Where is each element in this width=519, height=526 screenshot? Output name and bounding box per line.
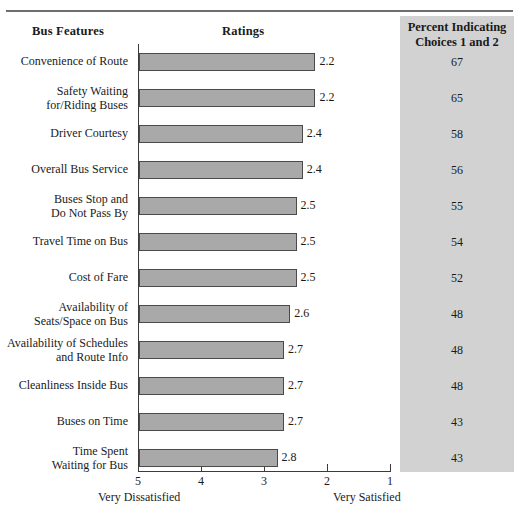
percent-value: 55 [400, 199, 514, 214]
percent-value: 52 [400, 271, 514, 286]
percent-value: 56 [400, 163, 514, 178]
rating-bar [139, 233, 297, 251]
rating-bar [139, 377, 284, 395]
row-label-line: Convenience of Route [0, 55, 128, 69]
chart-row: Time SpentWaiting for Bus2.843 [0, 440, 519, 476]
bar-value-label: 2.7 [288, 414, 303, 429]
bar-value-label: 2.6 [294, 306, 309, 321]
rating-bar [139, 161, 303, 179]
chart-row: Convenience of Route2.267 [0, 44, 519, 80]
row-label: Buses on Time [0, 415, 128, 429]
percent-value: 48 [400, 343, 514, 358]
chart-row: Buses Stop andDo Not Pass By2.555 [0, 188, 519, 224]
percent-value: 48 [400, 307, 514, 322]
row-label-line: Buses on Time [0, 415, 128, 429]
rating-bar [139, 53, 315, 71]
rating-bar [139, 413, 284, 431]
rating-bar [139, 89, 315, 107]
rating-bar [139, 341, 284, 359]
rating-bar [139, 305, 290, 323]
row-label-line: Cleanliness Inside Bus [0, 379, 128, 393]
chart-row: Overall Bus Service2.456 [0, 152, 519, 188]
chart-row: Availability of Schedulesand Route Info2… [0, 332, 519, 368]
axis-caption-very-satisfied: Very Satisfied [333, 490, 401, 505]
row-label-line: Availability of Schedules [0, 337, 128, 351]
percent-value: 43 [400, 451, 514, 466]
rating-bar [139, 125, 303, 143]
row-label-line: Buses Stop and [0, 193, 128, 207]
bar-value-label: 2.7 [288, 378, 303, 393]
percent-value: 54 [400, 235, 514, 250]
rating-bar [139, 449, 278, 467]
row-label: Time SpentWaiting for Bus [0, 445, 128, 472]
percent-value: 43 [400, 415, 514, 430]
row-label: Overall Bus Service [0, 163, 128, 177]
chart-row: Travel Time on Bus2.554 [0, 224, 519, 260]
row-label-line: Waiting for Bus [0, 458, 128, 472]
row-label-line: Travel Time on Bus [0, 235, 128, 249]
row-label-line: for/Riding Buses [0, 98, 128, 112]
bar-value-label: 2.8 [282, 450, 297, 465]
bus-features-ratings-chart: Bus Features Ratings Percent Indicating … [0, 0, 519, 526]
chart-row: Buses on Time2.743 [0, 404, 519, 440]
bar-value-label: 2.5 [301, 270, 316, 285]
x-axis-tick-label: 3 [252, 474, 276, 489]
row-label-line: Overall Bus Service [0, 163, 128, 177]
bar-value-label: 2.7 [288, 342, 303, 357]
row-label: Buses Stop andDo Not Pass By [0, 193, 128, 220]
row-label-line: Safety Waiting [0, 85, 128, 99]
axis-caption-very-dissatisfied: Very Dissatisfied [98, 490, 180, 505]
chart-row: Cost of Fare2.552 [0, 260, 519, 296]
row-label-line: Seats/Space on Bus [0, 314, 128, 328]
row-label-line: Cost of Fare [0, 271, 128, 285]
row-label: Driver Courtesy [0, 127, 128, 141]
row-label: Availability of Schedulesand Route Info [0, 337, 128, 364]
chart-row: Safety Waitingfor/Riding Buses2.265 [0, 80, 519, 116]
x-axis-tick-label: 2 [315, 474, 339, 489]
bar-value-label: 2.2 [319, 54, 334, 69]
percent-value: 48 [400, 379, 514, 394]
row-label-line: Time Spent [0, 445, 128, 459]
x-axis-tick-label: 5 [126, 474, 150, 489]
bar-value-label: 2.5 [301, 234, 316, 249]
percent-value: 67 [400, 55, 514, 70]
row-label: Availability ofSeats/Space on Bus [0, 301, 128, 328]
chart-row: Availability ofSeats/Space on Bus2.648 [0, 296, 519, 332]
bar-value-label: 2.2 [319, 90, 334, 105]
row-label-line: Driver Courtesy [0, 127, 128, 141]
row-label: Convenience of Route [0, 55, 128, 69]
row-label-line: Availability of [0, 301, 128, 315]
percent-value: 58 [400, 127, 514, 142]
row-label: Cost of Fare [0, 271, 128, 285]
row-label: Travel Time on Bus [0, 235, 128, 249]
row-label-line: and Route Info [0, 350, 128, 364]
chart-row: Driver Courtesy2.458 [0, 116, 519, 152]
bar-value-label: 2.4 [307, 162, 322, 177]
x-axis-tick-label: 4 [189, 474, 213, 489]
row-label: Cleanliness Inside Bus [0, 379, 128, 393]
chart-row: Cleanliness Inside Bus2.748 [0, 368, 519, 404]
row-label: Safety Waitingfor/Riding Buses [0, 85, 128, 112]
x-axis-tick-label: 1 [378, 474, 402, 489]
bar-value-label: 2.4 [307, 126, 322, 141]
bar-value-label: 2.5 [301, 198, 316, 213]
row-label-line: Do Not Pass By [0, 206, 128, 220]
rating-bar [139, 197, 297, 215]
rating-bar [139, 269, 297, 287]
percent-value: 65 [400, 91, 514, 106]
